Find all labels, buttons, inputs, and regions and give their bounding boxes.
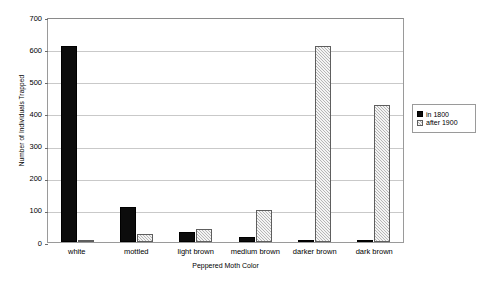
bar-group — [285, 19, 344, 242]
bar — [120, 207, 136, 242]
y-tick-label: 600 — [14, 46, 42, 55]
bar — [357, 240, 373, 242]
bar-group — [166, 19, 225, 242]
x-tick-label: light brown — [166, 247, 226, 257]
y-axis-tick-labels: 0100200300400500600700 — [14, 12, 42, 244]
bar — [239, 237, 255, 242]
x-tick-label: dark brown — [345, 247, 405, 257]
x-tick-label: medium brown — [226, 247, 286, 257]
x-tick-label: mottled — [107, 247, 167, 257]
legend-swatch-icon — [417, 111, 423, 117]
x-tick-label: white — [47, 247, 107, 257]
y-tick-label: 0 — [14, 239, 42, 248]
bar-group — [226, 19, 285, 242]
bar — [315, 46, 331, 242]
bar-chart: Number of Individuals Trapped 0100200300… — [0, 0, 483, 293]
y-tick-label: 300 — [14, 142, 42, 151]
bar — [179, 232, 195, 242]
x-tick-label: darker brown — [285, 247, 345, 257]
x-axis-tick-labels: whitemottledlight brownmedium browndarke… — [47, 247, 404, 257]
y-tick-mark — [45, 244, 48, 245]
legend-swatch-icon — [417, 120, 423, 126]
bar-group — [107, 19, 166, 242]
bar — [61, 46, 77, 242]
bar — [256, 210, 272, 242]
bar — [298, 240, 314, 242]
bar-group — [344, 19, 403, 242]
y-tick-label: 500 — [14, 78, 42, 87]
bars-layer — [48, 19, 403, 242]
x-axis-title: Peppered Moth Color — [47, 262, 404, 269]
y-tick-label: 200 — [14, 174, 42, 183]
y-tick-label: 700 — [14, 14, 42, 23]
y-tick-label: 400 — [14, 110, 42, 119]
legend-entry: after 1900 — [417, 119, 471, 126]
legend-entry: in 1800 — [417, 111, 471, 118]
y-tick-label: 100 — [14, 206, 42, 215]
bar-group — [48, 19, 107, 242]
legend-label: after 1900 — [426, 119, 458, 126]
bar — [78, 240, 94, 242]
bar — [374, 105, 390, 242]
plot-area — [47, 18, 404, 243]
legend-label: in 1800 — [426, 111, 449, 118]
bar — [196, 229, 212, 242]
legend: in 1800after 1900 — [412, 104, 476, 133]
bar — [137, 234, 153, 242]
